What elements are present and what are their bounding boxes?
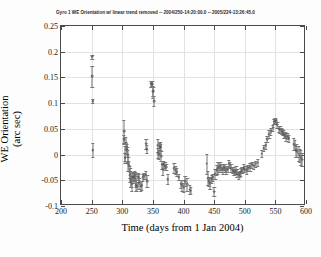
y-tick-label: 0.25: [44, 22, 58, 31]
error-bar-cap-upper: [122, 120, 125, 121]
error-bar-cap-upper: [163, 162, 166, 163]
plot-title: Gyro 1 WE Orientation w/ linear trend re…: [56, 10, 316, 16]
x-tick-label: 450: [208, 207, 220, 216]
error-bar-cap-lower: [130, 191, 133, 192]
error-bar-cap-lower: [91, 87, 94, 88]
data-point: [264, 144, 267, 147]
x-tick-mark-top: [306, 26, 307, 30]
x-tick-mark-top: [184, 26, 185, 30]
x-tick-mark: [306, 200, 307, 204]
error-bar-cap-upper: [129, 168, 132, 169]
error-bar-cap-lower: [256, 166, 259, 167]
error-bar-cap-upper: [206, 171, 209, 172]
data-point: [141, 184, 144, 187]
error-bar-cap-upper: [188, 185, 191, 186]
error-bar-cap-upper: [122, 135, 125, 136]
error-bar-cap-lower: [146, 187, 149, 188]
y-tick-label: 0: [54, 150, 58, 159]
x-tick-mark: [153, 200, 154, 204]
error-bar-cap-upper: [159, 144, 162, 145]
error-bar-cap-lower: [210, 183, 213, 184]
error-bar-cap-lower: [262, 151, 265, 152]
error-bar-cap-upper: [173, 163, 176, 164]
data-point: [160, 146, 163, 149]
data-point: [212, 176, 215, 179]
error-bar-cap-upper: [146, 175, 149, 176]
error-bar-cap-upper: [152, 87, 155, 88]
y-tick-mark-right: [300, 77, 304, 78]
gridline-horizontal: [61, 155, 304, 156]
error-bar-cap-lower: [189, 194, 192, 195]
data-point: [256, 162, 259, 165]
x-tick-label: 250: [86, 207, 98, 216]
error-bar-cap-upper: [297, 146, 300, 147]
y-tick-mark-right: [300, 180, 304, 181]
error-bar-cap-upper: [294, 144, 297, 145]
x-tick-mark-top: [153, 26, 154, 30]
error-bar-cap-lower: [266, 142, 269, 143]
data-point: [136, 185, 139, 188]
data-point: [153, 100, 156, 103]
error-bar-cap-upper: [230, 164, 233, 165]
x-tick-mark: [214, 200, 215, 204]
data-point: [261, 152, 264, 155]
x-tick-label: 300: [116, 207, 128, 216]
gridline-horizontal: [61, 77, 304, 78]
error-bar-cap-upper: [128, 166, 131, 167]
y-tick-mark: [61, 129, 65, 130]
error-bar-cap-lower: [91, 103, 94, 104]
error-bar-cap-lower: [91, 59, 94, 60]
error-bar-cap-upper: [166, 174, 169, 175]
y-tick-mark: [61, 52, 65, 53]
error-bar-cap-lower: [212, 196, 215, 197]
error-bar-cap-lower: [252, 169, 255, 170]
error-bar-cap-upper: [144, 171, 147, 172]
error-bar-cap-lower: [211, 181, 214, 182]
error-bar-cap-upper: [234, 166, 237, 167]
error-bar-cap-lower: [165, 170, 168, 171]
error-bar-cap-upper: [91, 143, 94, 144]
y-tick-label: 0.2: [48, 47, 58, 56]
y-tick-label: -0.1: [45, 202, 58, 211]
error-bar-cap-upper: [292, 138, 295, 139]
x-axis-label: Time (days from 1 Jan 2004): [60, 222, 305, 233]
error-bar-cap-lower: [239, 176, 242, 177]
error-bar-cap-upper: [301, 153, 304, 154]
x-tick-mark-top: [92, 26, 93, 30]
error-bar-cap-upper: [156, 139, 159, 140]
error-bar-cap-lower: [264, 149, 267, 150]
y-tick-mark: [61, 26, 65, 27]
error-bar-cap-lower: [214, 179, 217, 180]
error-bar-cap-upper: [160, 151, 163, 152]
error-bar-cap-lower: [268, 138, 271, 139]
error-bar-cap-upper: [184, 176, 187, 177]
error-bar-cap-lower: [260, 157, 263, 158]
error-bar-cap-upper: [185, 178, 188, 179]
y-tick-label: -0.05: [41, 176, 58, 185]
error-bar-cap-upper: [189, 187, 192, 188]
error-bar-cap-upper: [138, 178, 141, 179]
x-tick-mark: [275, 200, 276, 204]
x-tick-label: 400: [178, 207, 190, 216]
error-bar-cap-upper: [256, 159, 259, 160]
x-tick-mark: [184, 200, 185, 204]
data-point: [175, 171, 178, 174]
error-bar-cap-lower: [139, 191, 142, 192]
data-point: [301, 158, 304, 161]
error-bar-cap-upper: [152, 96, 155, 97]
error-bar-cap-lower: [145, 153, 148, 154]
error-bar-cap-upper: [127, 157, 130, 158]
data-point: [165, 166, 168, 169]
y-tick-mark-right: [300, 129, 304, 130]
error-bar-cap-upper: [145, 145, 148, 146]
y-tick-mark: [61, 103, 65, 104]
error-bar-cap-lower: [301, 166, 304, 167]
error-bar-cap-lower: [237, 179, 240, 180]
gridline-horizontal: [61, 103, 304, 104]
data-point: [92, 100, 95, 103]
y-tick-mark: [61, 77, 65, 78]
error-bar-cap-upper: [299, 150, 302, 151]
data-point: [145, 148, 148, 151]
data-point: [190, 189, 193, 192]
error-bar-cap-upper: [212, 187, 215, 188]
